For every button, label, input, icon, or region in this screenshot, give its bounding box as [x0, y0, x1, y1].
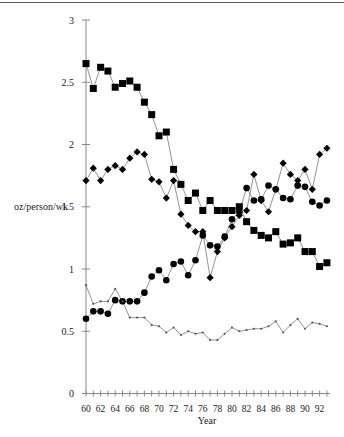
square-marker — [214, 207, 221, 214]
circle-marker — [178, 258, 185, 265]
y-tick-label: 2.5 — [62, 77, 75, 88]
square-marker — [280, 241, 287, 248]
square-marker — [323, 259, 330, 266]
square-marker — [83, 60, 90, 67]
x-tick-label: 88 — [286, 404, 296, 414]
diamond-marker — [90, 165, 97, 172]
diamond-marker — [250, 171, 257, 178]
square-marker — [185, 197, 192, 204]
square-marker — [243, 218, 250, 225]
x-tick-label: 72 — [169, 404, 179, 414]
circle-marker — [324, 197, 331, 204]
x-tick-label: 76 — [198, 404, 208, 414]
circle-marker — [316, 202, 323, 209]
square-marker — [309, 248, 316, 255]
circle-marker — [192, 257, 199, 264]
circle-marker — [200, 232, 207, 239]
square-marker — [163, 129, 170, 136]
x-tick-label: 74 — [183, 404, 193, 414]
x-tick-label: 66 — [125, 404, 135, 414]
square-marker — [90, 85, 97, 92]
circle-marker — [302, 184, 309, 191]
diamond-marker — [265, 208, 272, 215]
square-marker — [104, 68, 111, 75]
dot-marker — [158, 325, 160, 327]
x-tick-label: 86 — [271, 404, 281, 414]
square-marker — [119, 80, 126, 87]
dot-marker — [297, 318, 299, 320]
diamond-marker — [141, 151, 148, 158]
dot-marker — [326, 325, 328, 327]
circle-marker — [265, 182, 272, 189]
diamond-marker — [301, 166, 308, 173]
circle-marker — [236, 208, 243, 215]
diamond-marker — [243, 207, 250, 214]
square-marker — [141, 99, 148, 106]
dot-marker — [187, 330, 189, 332]
dot-marker — [202, 331, 204, 333]
square-marker — [294, 234, 301, 241]
square-marker — [126, 78, 133, 85]
dot-marker — [253, 328, 255, 330]
dot-marker — [173, 326, 175, 328]
x-tick-label: 60 — [81, 404, 91, 414]
dot-marker — [165, 331, 167, 333]
square-marker — [207, 197, 214, 204]
dot-marker — [260, 328, 262, 330]
circle-marker — [214, 243, 221, 250]
diamond-marker — [119, 166, 126, 173]
square-marker — [287, 239, 294, 246]
circle-marker — [280, 195, 287, 202]
circle-marker — [127, 298, 134, 305]
dot-marker — [238, 330, 240, 332]
dot-marker — [267, 325, 269, 327]
circle-marker — [112, 297, 119, 304]
square-marker — [272, 228, 279, 235]
dot-marker — [129, 316, 131, 318]
dot-marker — [114, 288, 116, 290]
square-marker — [316, 263, 323, 270]
dot-marker — [136, 316, 138, 318]
circle-marker — [243, 185, 250, 192]
square-marker — [250, 227, 257, 234]
square-marker — [112, 84, 119, 91]
x-tick-label: 80 — [227, 404, 237, 414]
square-marker — [177, 181, 184, 188]
diamond-marker — [280, 160, 287, 167]
circle-marker — [294, 182, 301, 189]
axes: 00.511.522.53606264666870727476788082848… — [62, 15, 330, 414]
x-axis-label: Year — [198, 415, 217, 426]
circle-marker — [251, 197, 258, 204]
dot-marker — [85, 284, 87, 286]
dot-marker — [289, 324, 291, 326]
x-tick-label: 64 — [110, 404, 120, 414]
circle-marker — [207, 242, 214, 249]
dot-marker — [231, 326, 233, 328]
diamond-marker — [97, 177, 104, 184]
dot-marker — [107, 300, 109, 302]
diamond-marker — [82, 177, 89, 184]
circle-marker — [221, 233, 228, 240]
dot-marker — [180, 334, 182, 336]
circle-marker — [134, 298, 141, 305]
circle-marker — [83, 316, 90, 323]
series-line-squares — [86, 64, 327, 267]
dot-marker — [194, 333, 196, 335]
dot-marker — [304, 328, 306, 330]
square-marker — [258, 232, 265, 239]
diamond-marker — [309, 186, 316, 193]
y-tick-label: 3 — [69, 15, 74, 26]
dot-marker — [275, 320, 277, 322]
dot-marker — [319, 323, 321, 325]
diamond-marker — [207, 274, 214, 281]
diamond-marker — [170, 177, 177, 184]
diamond-marker — [177, 211, 184, 218]
dot-marker — [92, 303, 94, 305]
square-marker — [192, 190, 199, 197]
diamond-marker — [104, 166, 111, 173]
square-marker — [302, 248, 309, 255]
dot-marker — [143, 316, 145, 318]
dot-marker — [311, 321, 313, 323]
diamond-marker — [112, 162, 119, 169]
circle-marker — [90, 308, 97, 315]
